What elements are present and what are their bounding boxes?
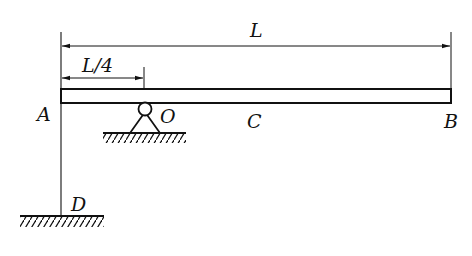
length-l-label: L (249, 19, 263, 41)
point-a-label: A (35, 103, 51, 125)
beam-ab (61, 89, 451, 103)
dimension-quarter-length: L/4 (62, 54, 144, 89)
ground-d-icon (20, 216, 104, 227)
point-c-label: C (247, 110, 262, 132)
point-o-label: O (160, 105, 176, 127)
beam-diagram: L L/4 A O C B D (0, 0, 472, 256)
point-d-label: D (70, 193, 86, 215)
quarter-length-label: L/4 (81, 54, 113, 76)
point-b-label: B (443, 110, 458, 132)
